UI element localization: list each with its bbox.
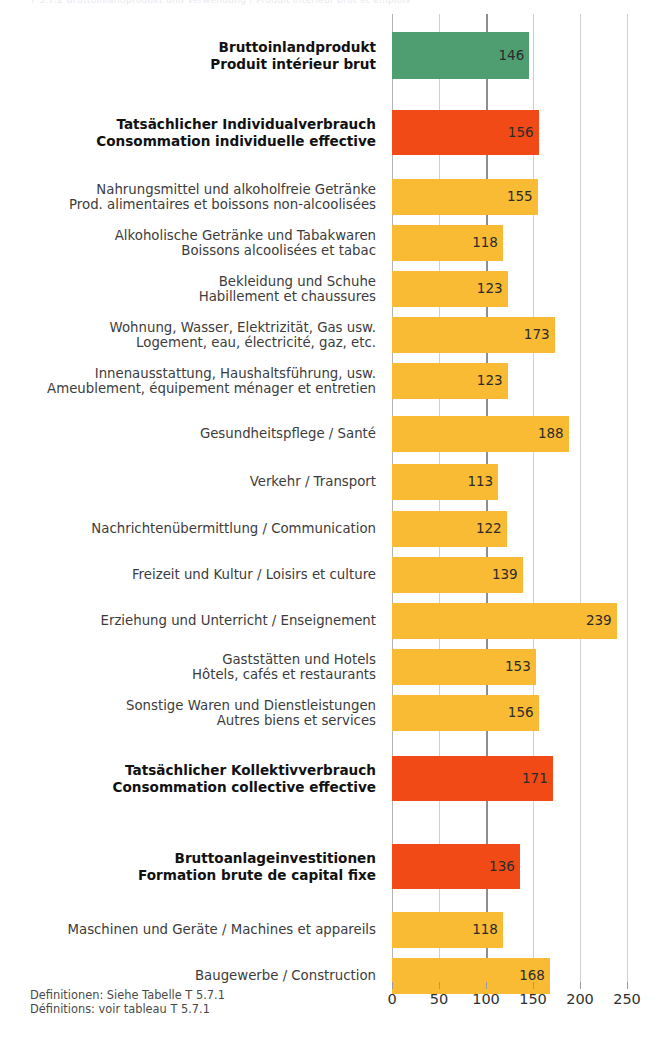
category-label-de: Sonstige Waren und Dienstleistungen xyxy=(0,698,376,714)
bar[interactable]: 153 xyxy=(392,649,536,685)
axis-tick-50 xyxy=(439,982,440,989)
category-label-de: Baugewerbe / Construction xyxy=(0,968,376,984)
category-label: Maschinen und Geräte / Machines et appar… xyxy=(0,912,384,948)
bar-value-label: 118 xyxy=(472,923,498,937)
bar[interactable]: 139 xyxy=(392,557,523,593)
bar-row: 139 xyxy=(392,557,627,593)
category-label: Wohnung, Wasser, Elektrizität, Gas usw.L… xyxy=(0,317,384,353)
category-label-de: Erziehung und Unterricht / Enseignement xyxy=(0,613,376,629)
bar-value-label: 113 xyxy=(467,475,493,489)
category-label-de: Innenausstattung, Haushaltsführung, usw. xyxy=(0,366,376,382)
category-label-fr: Produit intérieur brut xyxy=(0,56,376,73)
bar[interactable]: 118 xyxy=(392,225,503,261)
category-label-fr: Consommation individuelle effective xyxy=(0,133,376,150)
bar-row: 173 xyxy=(392,317,627,353)
category-label: BruttoanlageinvestitionenFormation brute… xyxy=(0,844,384,889)
bar[interactable]: 239 xyxy=(392,603,617,639)
category-label: Tatsächlicher IndividualverbrauchConsomm… xyxy=(0,110,384,155)
category-label: Verkehr / Transport xyxy=(0,464,384,500)
category-label-de: Nahrungsmittel und alkoholfreie Getränke xyxy=(0,182,376,198)
bar-row: 113 xyxy=(392,464,627,500)
axis-tick-label: 50 xyxy=(430,991,448,1007)
category-label-de: Gesundheitspflege / Santé xyxy=(0,426,376,442)
category-label-fr: Autres biens et services xyxy=(0,713,376,729)
category-label-de: Bruttoinlandprodukt xyxy=(0,39,376,56)
bar-row: 136 xyxy=(392,844,627,889)
bar-value-label: 123 xyxy=(477,374,503,388)
bar[interactable]: 188 xyxy=(392,416,569,452)
footnote-line-de: Definitionen: Siehe Tabelle T 5.7.1 xyxy=(30,988,225,1002)
category-label-fr: Prod. alimentaires et boissons non-alcoo… xyxy=(0,197,376,213)
bar-value-label: 123 xyxy=(477,282,503,296)
category-label: Gaststätten und HotelsHôtels, cafés et r… xyxy=(0,649,384,685)
bar-value-label: 173 xyxy=(524,328,550,342)
category-label-fr: Hôtels, cafés et restaurants xyxy=(0,667,376,683)
category-label-de: Bruttoanlageinvestitionen xyxy=(0,850,376,867)
chart-root: T 5.7.2 Bruttoinlandprodukt und Verwendu… xyxy=(0,0,660,1045)
bar[interactable]: 136 xyxy=(392,844,520,889)
bar-row: 156 xyxy=(392,695,627,731)
bar[interactable]: 173 xyxy=(392,317,555,353)
bar[interactable]: 171 xyxy=(392,756,553,801)
category-label: BruttoinlandproduktProduit intérieur bru… xyxy=(0,32,384,79)
category-label: Innenausstattung, Haushaltsführung, usw.… xyxy=(0,363,384,399)
bar[interactable]: 122 xyxy=(392,511,507,547)
category-label: Erziehung und Unterricht / Enseignement xyxy=(0,603,384,639)
cutoff-header-strip: T 5.7.2 Bruttoinlandprodukt und Verwendu… xyxy=(0,0,660,9)
axis-tick-250 xyxy=(627,982,628,989)
category-label-fr: Habillement et chaussures xyxy=(0,289,376,305)
category-label-de: Alkoholische Getränke und Tabakwaren xyxy=(0,228,376,244)
axis-tick-label: 100 xyxy=(472,991,500,1007)
category-label-de: Bekleidung und Schuhe xyxy=(0,274,376,290)
plot-area: 1461561551181231731231881131221392391531… xyxy=(392,14,627,982)
category-label-fr: Consommation collective effective xyxy=(0,779,376,796)
category-label: Sonstige Waren und DienstleistungenAutre… xyxy=(0,695,384,731)
category-label-de: Gaststätten und Hotels xyxy=(0,652,376,668)
bar-value-label: 153 xyxy=(505,660,531,674)
category-label: Alkoholische Getränke und TabakwarenBois… xyxy=(0,225,384,261)
category-label: Nahrungsmittel und alkoholfreie Getränke… xyxy=(0,179,384,215)
bar[interactable]: 118 xyxy=(392,912,503,948)
x-axis: 050100150200250 xyxy=(392,982,627,1022)
bar[interactable]: 123 xyxy=(392,271,508,307)
footnote: Definitionen: Siehe Tabelle T 5.7.1 Défi… xyxy=(30,988,225,1016)
bar-row: 123 xyxy=(392,271,627,307)
bar-value-label: 168 xyxy=(519,969,545,983)
bar-row: 123 xyxy=(392,363,627,399)
bar-value-label: 155 xyxy=(507,190,533,204)
bar[interactable]: 113 xyxy=(392,464,498,500)
gridline-250 xyxy=(627,14,628,982)
category-label-fr: Boissons alcoolisées et tabac xyxy=(0,243,376,259)
bar-row: 118 xyxy=(392,912,627,948)
axis-tick-150 xyxy=(533,982,534,989)
bar-value-label: 122 xyxy=(476,522,502,536)
category-label-de: Tatsächlicher Individualverbrauch xyxy=(0,116,376,133)
category-label-de: Maschinen und Geräte / Machines et appar… xyxy=(0,922,376,938)
bar-row: 118 xyxy=(392,225,627,261)
axis-tick-label: 150 xyxy=(519,991,547,1007)
category-label-de: Verkehr / Transport xyxy=(0,474,376,490)
category-label-fr: Formation brute de capital fixe xyxy=(0,867,376,884)
axis-tick-label: 200 xyxy=(566,991,594,1007)
category-label-de: Freizeit und Kultur / Loisirs et culture xyxy=(0,567,376,583)
category-label: Bekleidung und SchuheHabillement et chau… xyxy=(0,271,384,307)
bar-value-label: 156 xyxy=(508,126,534,140)
bar-row: 171 xyxy=(392,756,627,801)
bar-row: 153 xyxy=(392,649,627,685)
bar-value-label: 156 xyxy=(508,706,534,720)
bar-value-label: 239 xyxy=(586,614,612,628)
category-label: Tatsächlicher KollektivverbrauchConsomma… xyxy=(0,756,384,801)
bar[interactable]: 146 xyxy=(392,32,529,79)
axis-tick-200 xyxy=(580,982,581,989)
axis-tick-0 xyxy=(392,982,393,989)
category-label: Nachrichtenübermittlung / Communication xyxy=(0,511,384,547)
bar-series: 1461561551181231731231881131221392391531… xyxy=(392,14,627,982)
bar[interactable]: 156 xyxy=(392,695,539,731)
bar-value-label: 136 xyxy=(489,860,515,874)
bar-row: 188 xyxy=(392,416,627,452)
category-label-de: Tatsächlicher Kollektivverbrauch xyxy=(0,762,376,779)
bar[interactable]: 155 xyxy=(392,179,538,215)
bar[interactable]: 123 xyxy=(392,363,508,399)
bar[interactable]: 156 xyxy=(392,110,539,155)
category-label-fr: Logement, eau, électricité, gaz, etc. xyxy=(0,335,376,351)
